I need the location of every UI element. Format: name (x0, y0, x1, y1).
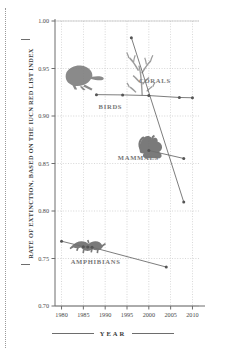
series-corals (130, 36, 185, 203)
data-point (191, 96, 194, 99)
x-tick-label: 2010 (186, 311, 198, 318)
y-tick-label: 0.75 (38, 255, 49, 262)
data-point (147, 149, 150, 152)
x-tick-label: 2005 (164, 311, 176, 318)
data-point (130, 36, 133, 39)
data-point (178, 96, 181, 99)
data-point (147, 94, 150, 97)
chart-plot-area: CORALSBIRDSMAMMALSAMPHIBIANS 0.700.750.8… (0, 0, 226, 355)
x-axis-rule-right (132, 333, 174, 334)
x-axis-title-group: YEAR (0, 330, 226, 337)
data-point (95, 93, 98, 96)
y-tick-label: 0.70 (38, 302, 49, 309)
data-point (182, 200, 185, 203)
bird-silhouette-icon (66, 66, 104, 91)
data-point (121, 93, 124, 96)
series-label-mammals: MAMMALS (118, 154, 159, 161)
x-axis-rule-left (52, 333, 94, 334)
series-label-birds: BIRDS (99, 103, 123, 110)
x-tick-label: 1980 (55, 311, 67, 318)
series-label-corals: CORALS (139, 77, 171, 84)
x-tick-label: 1985 (77, 311, 89, 318)
x-axis-title: YEAR (100, 330, 127, 337)
y-tick-label: 0.90 (38, 112, 49, 119)
x-tick-label: 1995 (121, 311, 133, 318)
series-label-amphibians: AMPHIBIANS (71, 258, 121, 265)
data-point (182, 157, 185, 160)
tick-labels: 0.700.750.800.850.900.951.00198019851990… (38, 17, 198, 318)
x-tick-label: 2000 (143, 311, 155, 318)
y-tick-label: 0.95 (38, 65, 49, 72)
y-tick-label: 0.85 (38, 160, 49, 167)
data-point (165, 266, 168, 269)
x-tick-label: 1990 (99, 311, 111, 318)
data-point (91, 246, 94, 249)
y-tick-label: 1.00 (38, 17, 49, 24)
series-birds (95, 93, 194, 99)
data-point (82, 245, 85, 248)
data-point (60, 240, 63, 243)
coral-silhouette-icon (126, 52, 155, 95)
series-labels: CORALSBIRDSMAMMALSAMPHIBIANS (71, 77, 171, 265)
data-point (86, 245, 89, 248)
axis-ticks (52, 21, 193, 310)
chart-root: RATE OF EXTINCTION, BASED ON THE IUCN RE… (0, 0, 226, 355)
y-tick-label: 0.80 (38, 207, 49, 214)
